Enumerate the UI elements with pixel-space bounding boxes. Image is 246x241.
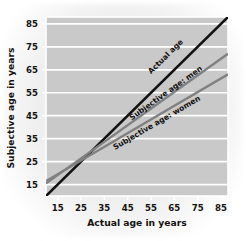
x-tick-label: 65 xyxy=(168,203,180,213)
x-tick-label: 55 xyxy=(145,203,157,213)
y-tick-label: 65 xyxy=(26,65,38,75)
x-tick-label: 35 xyxy=(98,203,110,213)
x-tick-label: 15 xyxy=(52,203,64,213)
y-tick-label: 15 xyxy=(26,180,38,190)
age-perception-line-chart: 1525354555657585 1525354555657585 Actual… xyxy=(0,0,246,241)
x-tick-label: 85 xyxy=(215,203,227,213)
figure-container: 1525354555657585 1525354555657585 Actual… xyxy=(0,0,246,241)
x-tick-label: 75 xyxy=(192,203,204,213)
y-tick-label: 85 xyxy=(26,19,38,29)
y-tick-label: 25 xyxy=(26,157,38,167)
x-tick-label: 25 xyxy=(75,203,87,213)
y-axis-tick-labels: 1525354555657585 xyxy=(26,19,38,190)
x-tick-label: 45 xyxy=(122,203,134,213)
x-axis-title: Actual age in years xyxy=(87,217,187,228)
y-tick-label: 45 xyxy=(26,111,38,121)
y-axis-title: Subjective age in years xyxy=(5,47,16,169)
y-tick-label: 75 xyxy=(26,42,38,52)
x-axis-tick-labels: 1525354555657585 xyxy=(52,203,227,213)
y-tick-label: 55 xyxy=(26,88,38,98)
y-tick-label: 35 xyxy=(26,134,38,144)
